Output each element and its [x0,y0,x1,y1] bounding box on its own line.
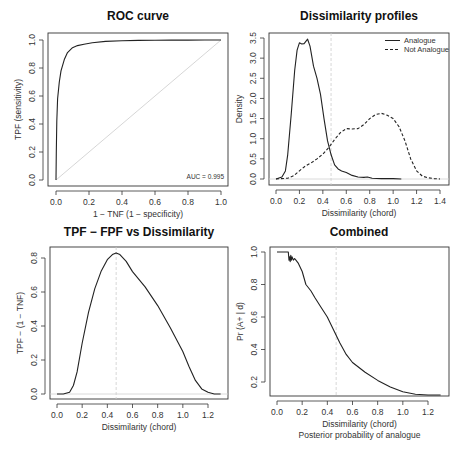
y-tick-label: 0.4 [29,320,39,332]
auc-annotation: AUC = 0.995 [187,173,225,180]
y-tick-label: 0.2 [27,146,37,158]
x-tick-label: 1.2 [411,196,423,206]
reference-diagonal [56,40,221,180]
series-posterior [277,252,441,395]
x-tick-label: 0.2 [294,196,306,206]
y-tick-label: 1.0 [249,246,259,258]
y-tick-label: 3.0 [248,52,258,64]
y-tick-label: 1.0 [27,34,37,46]
x-tick-label: 0.6 [340,196,352,206]
y-axis-label: Pr (A+ | d) [235,302,245,341]
y-axis-label: TPF (sensitivity) [13,79,23,140]
x-tick-label: 1.0 [215,197,227,207]
y-tick-label: 0.6 [249,311,259,323]
x-tick-label: 0.2 [83,197,95,207]
y-tick-label: 1.0 [248,133,258,145]
x-tick-label: 0.8 [364,196,376,206]
series-tpf-fpf [57,253,221,394]
profiles-title: Dissimilarity profiles [300,9,418,23]
x-tick-label: 0.4 [321,407,333,417]
y-tick-label: 0.5 [248,153,258,165]
y-tick-label: 0.2 [29,354,39,366]
x-tick-label: 0.2 [296,407,308,417]
y-tick-label: 0.0 [248,173,258,185]
series-not-analogue [276,113,440,179]
chart-subtitle: Posterior probability of analogue [299,430,421,440]
dissimilarity-profiles-panel: Dissimilarity profiles 0.00.20.40.60.81.… [234,9,449,218]
x-tick-label: 0.4 [317,196,329,206]
x-tick-label: 0.0 [50,197,62,207]
y-tick-label: 3.5 [248,32,258,44]
legend-label: Not Analogue [404,45,449,54]
x-tick-label: 0.8 [152,410,164,420]
x-axis-label: Dissimilarity (chord) [322,419,397,429]
x-tick-label: 0.6 [127,410,139,420]
y-tick-label: 0.4 [27,118,37,130]
y-tick-label: 0.6 [27,90,37,102]
y-tick-label: 1.5 [248,112,258,124]
x-axis-label: Dissimilarity (chord) [102,422,177,432]
y-tick-label: 0.8 [249,278,259,290]
x-tick-label: 0.8 [372,407,384,417]
legend-label: Analogue [404,36,436,45]
x-axis-label: Dissimilarity (chord) [322,208,397,218]
x-tick-label: 1.0 [177,410,189,420]
x-axis-label: 1 − TNF (1 − specificity) [93,209,183,219]
roc-panel: ROC curve 0.00.20.40.60.81.01 − TNF (1 −… [13,9,228,219]
y-tick-label: 0.4 [249,343,259,355]
y-tick-label: 0.8 [29,252,39,264]
roc-title: ROC curve [107,9,169,23]
y-tick-label: 2.0 [248,92,258,104]
y-tick-label: 0.6 [29,286,39,298]
x-tick-label: 0.4 [101,410,113,420]
x-tick-label: 1.0 [387,196,399,206]
y-axis-label: Density [234,94,244,123]
series-analogue [276,39,401,179]
y-tick-label: 0.0 [29,388,39,400]
x-tick-label: 1.4 [434,196,446,206]
figure: ROC curve 0.00.20.40.60.81.01 − TNF (1 −… [0,0,465,454]
x-tick-label: 0.0 [51,410,63,420]
y-tick-label: 2.5 [248,72,258,84]
x-tick-label: 0.8 [182,197,194,207]
plot-box [50,247,228,399]
y-tick-label: 0.8 [27,62,37,74]
tpf-fpf-panel: TPF − FPF vs Dissimilarity 0.00.20.40.60… [15,225,228,432]
x-tick-label: 1.2 [422,407,434,417]
x-tick-label: 0.6 [149,197,161,207]
tpf-fpf-title: TPF − FPF vs Dissimilarity [64,225,215,239]
combined-title: Combined [330,225,389,239]
y-tick-label: 0.0 [27,174,37,186]
x-tick-label: 0.0 [270,196,282,206]
plot-box [48,33,228,186]
y-tick-label: 0.2 [249,376,259,388]
x-tick-label: 0.6 [347,407,359,417]
x-tick-label: 1.2 [202,410,214,420]
plot-box [270,247,449,396]
combined-panel: Combined 0.00.20.40.60.81.01.2Dissimilar… [235,225,449,440]
y-axis-label: TPF − (1 − TNF) [15,292,25,354]
legend: AnalogueNot Analogue [385,36,449,54]
x-tick-label: 0.4 [116,197,128,207]
x-tick-label: 1.0 [397,407,409,417]
x-tick-label: 0.0 [271,407,283,417]
x-tick-label: 0.2 [76,410,88,420]
